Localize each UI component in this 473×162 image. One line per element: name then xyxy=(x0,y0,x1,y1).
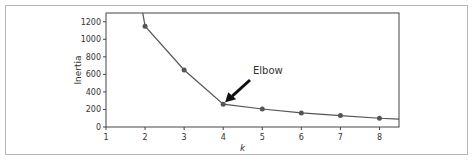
elbow-chart: 12345678020040060080010001200kInertiaElb… xyxy=(0,0,473,162)
data-point xyxy=(338,113,343,118)
x-tick-label: 3 xyxy=(182,133,187,142)
x-tick-label: 5 xyxy=(260,133,265,142)
data-point xyxy=(260,107,265,112)
data-line xyxy=(106,0,419,120)
y-tick-label: 600 xyxy=(86,70,101,79)
y-tick-label: 0 xyxy=(96,123,101,132)
y-tick-label: 200 xyxy=(86,105,101,114)
y-tick-label: 1200 xyxy=(81,18,101,27)
x-tick-label: 6 xyxy=(299,133,304,142)
y-axis-label: Inertia xyxy=(73,55,83,84)
y-tick-label: 400 xyxy=(86,88,101,97)
annotation-label: Elbow xyxy=(253,65,283,76)
x-tick-label: 7 xyxy=(338,133,343,142)
data-point xyxy=(182,68,187,73)
y-tick-label: 1000 xyxy=(81,35,101,44)
data-point xyxy=(299,110,304,115)
annotation-arrow xyxy=(232,80,250,96)
x-tick-label: 2 xyxy=(143,133,148,142)
x-tick-label: 1 xyxy=(103,133,108,142)
y-tick-label: 800 xyxy=(86,53,101,62)
x-tick-label: 4 xyxy=(221,133,226,142)
x-tick-label: 8 xyxy=(377,133,382,142)
data-point xyxy=(143,24,148,29)
x-axis-label: k xyxy=(240,143,246,153)
data-point xyxy=(377,116,382,121)
data-point xyxy=(221,102,226,107)
